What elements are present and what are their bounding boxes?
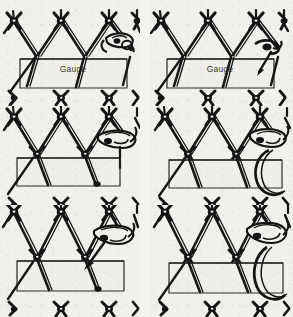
gauge-board [169, 160, 282, 188]
panel-3-artwork [0, 106, 146, 212]
lower-knot [93, 181, 100, 187]
panel-step-5 [0, 205, 146, 317]
column-gutter [140, 0, 150, 317]
panel-step-4 [147, 106, 293, 212]
gauge-board [17, 158, 120, 186]
lower-knot [94, 286, 101, 292]
figure-sheet: Gauge [0, 0, 293, 317]
panel-step-6 [147, 205, 293, 317]
panel-2-artwork: Gauge [147, 0, 293, 106]
panel-step-3 [0, 106, 146, 212]
panel-4-artwork [147, 106, 293, 212]
panel-step-1: Gauge [0, 0, 146, 106]
panel-1-artwork: Gauge [0, 0, 146, 106]
gauge-board [17, 261, 124, 291]
panel-step-2: Gauge [147, 0, 293, 106]
panel-5-artwork [0, 205, 146, 317]
panel-6-artwork [147, 205, 293, 317]
